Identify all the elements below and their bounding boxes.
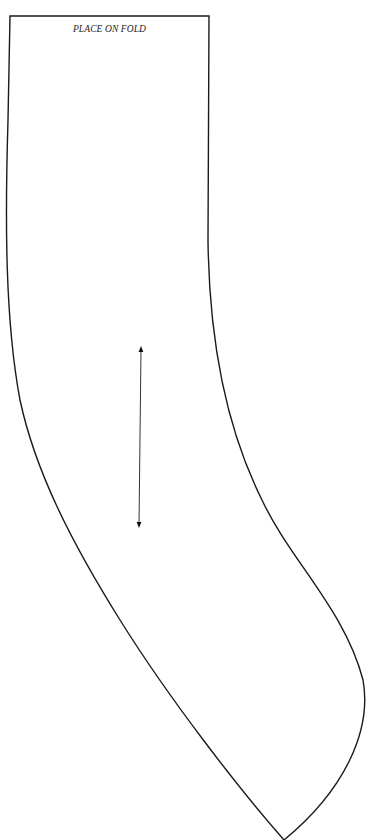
pattern-canvas bbox=[0, 0, 379, 840]
grainline-arrow bbox=[139, 349, 141, 525]
pattern-piece-outline bbox=[6, 16, 364, 840]
place-on-fold-label: PLACE ON FOLD bbox=[10, 24, 209, 34]
